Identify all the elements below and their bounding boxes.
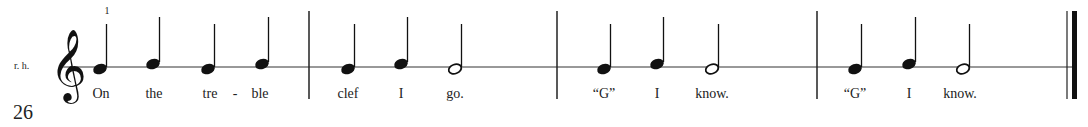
lyric: ble	[251, 86, 268, 102]
page-number: 26	[13, 101, 33, 124]
staff-label: r. h.	[14, 60, 29, 71]
lyric: know.	[943, 86, 977, 102]
lyric: I	[907, 86, 912, 102]
svg-text:𝄞: 𝄞	[50, 28, 87, 104]
lyric: tre	[203, 86, 218, 102]
lyric: “G”	[593, 86, 616, 102]
lyric: I	[655, 86, 660, 102]
lyric: know.	[695, 86, 729, 102]
lyric: “G”	[844, 86, 867, 102]
treble-clef-icon: 𝄞	[50, 28, 87, 104]
lyric-hyphen: -	[233, 86, 238, 102]
lyric: I	[399, 86, 404, 102]
lyric: On	[92, 86, 109, 102]
lyric: clef	[338, 86, 359, 102]
staff: 𝄞	[0, 0, 1088, 127]
lyric: go.	[446, 86, 464, 102]
final-barline-thick	[1072, 11, 1077, 99]
fingering-number: 1	[105, 5, 110, 16]
lyric: the	[145, 86, 162, 102]
